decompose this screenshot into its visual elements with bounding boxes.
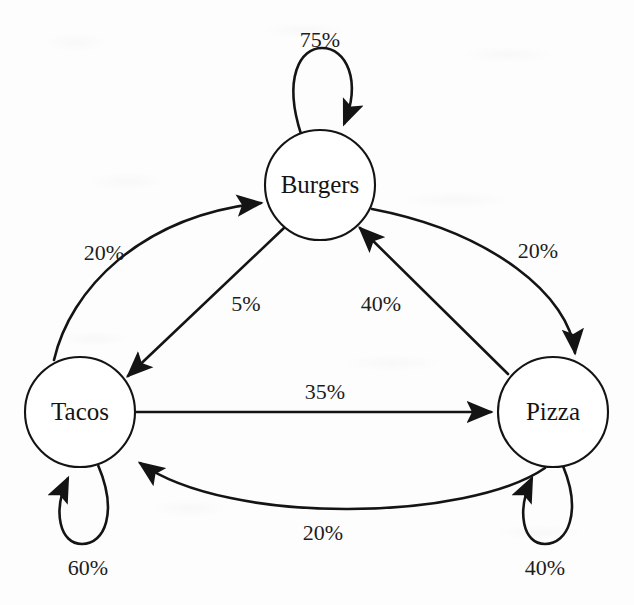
edge-label-pizza-pizza: 40%: [525, 555, 565, 580]
edge-label-pizza-burgers: 40%: [361, 291, 401, 316]
edge-path-pizza-tacos: [140, 463, 545, 509]
node-label-burgers: Burgers: [281, 171, 360, 198]
edge-tacos-burgers: 20%: [54, 203, 261, 360]
edge-label-tacos-pizza: 35%: [305, 379, 345, 404]
edge-pizza-tacos: 20%: [140, 463, 545, 545]
node-burgers[interactable]: Burgers: [265, 130, 375, 240]
edge-path-tacos-tacos: [60, 465, 108, 544]
node-pizza[interactable]: Pizza: [498, 357, 608, 467]
node-label-tacos: Tacos: [51, 398, 109, 425]
edge-tacos-tacos: 60%: [60, 465, 109, 580]
edge-tacos-pizza: 35%: [136, 379, 491, 412]
edge-path-tacos-burgers: [54, 203, 261, 360]
edge-label-burgers-burgers: 75%: [300, 27, 340, 52]
edge-label-burgers-tacos: 5%: [231, 291, 260, 316]
edge-burgers-burgers: 75%: [293, 27, 351, 134]
edge-path-burgers-burgers: [293, 48, 351, 134]
state-transition-diagram: 75% 20% 5% 40% 20% 35% 20%: [0, 0, 634, 605]
edge-path-burgers-pizza: [372, 209, 575, 353]
diagram-canvas: 75% 20% 5% 40% 20% 35% 20%: [0, 0, 634, 605]
node-label-pizza: Pizza: [526, 398, 580, 425]
edge-burgers-pizza: 20%: [372, 209, 575, 353]
edge-pizza-pizza: 40%: [523, 466, 572, 580]
node-tacos[interactable]: Tacos: [25, 357, 135, 467]
edge-label-burgers-pizza: 20%: [518, 238, 558, 263]
edge-label-tacos-burgers: 20%: [84, 240, 124, 265]
edge-label-tacos-tacos: 60%: [68, 555, 108, 580]
edge-path-burgers-tacos: [128, 227, 285, 376]
edge-label-pizza-tacos: 20%: [303, 520, 343, 545]
edge-burgers-tacos: 5%: [128, 227, 285, 376]
